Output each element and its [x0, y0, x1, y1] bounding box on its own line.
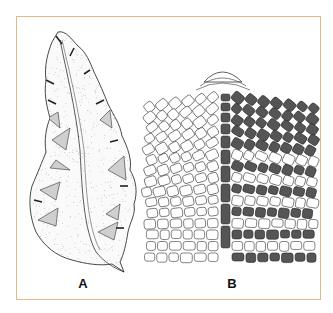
panel-a-label: A — [78, 276, 87, 291]
figure-illustration — [0, 0, 333, 313]
panel-a-thallus-drawing — [30, 32, 136, 272]
panel-b-cell-lattice-drawing — [141, 72, 320, 263]
panel-b-label: B — [227, 276, 236, 291]
